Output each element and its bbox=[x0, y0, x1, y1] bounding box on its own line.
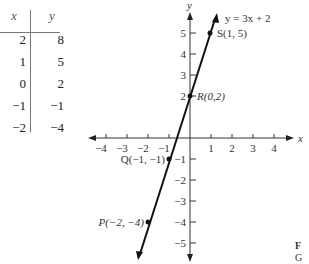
point-Q: Q(−1, −1) bbox=[121, 153, 172, 166]
x-tick-label: 3 bbox=[250, 142, 256, 154]
x-tick-label: 1 bbox=[208, 142, 214, 154]
x-tick-label: −4 bbox=[95, 142, 107, 154]
y-axis-label: y bbox=[186, 0, 192, 11]
point-label: Q(−1, −1) bbox=[121, 153, 166, 166]
line-equation-label: y = 3x + 2 bbox=[225, 12, 270, 24]
y-tick-label: −3 bbox=[174, 195, 186, 207]
line-y-equals-3x-plus-2: y = 3x + 2 bbox=[136, 12, 270, 260]
point-label: P(−2, −4) bbox=[98, 216, 145, 229]
x-tick-label: 4 bbox=[271, 142, 277, 154]
y-tick-label: −5 bbox=[174, 237, 186, 249]
y-tick-label: −1 bbox=[174, 153, 186, 165]
y-axis-down-arrow-icon bbox=[187, 254, 193, 262]
point-S: S(1, 5) bbox=[208, 27, 248, 40]
y-axis-up-arrow-icon bbox=[187, 12, 193, 20]
point-P: P(−2, −4) bbox=[98, 216, 151, 229]
line-bottom-arrow-icon bbox=[136, 251, 143, 260]
x-axis: x −4 −3 −2 −1 1 2 3 4 bbox=[88, 132, 303, 154]
x-axis-label: x bbox=[297, 132, 303, 144]
y-tick-label: 5 bbox=[181, 27, 187, 39]
caption-line-2: G bbox=[295, 252, 302, 264]
coordinate-graph: x −4 −3 −2 −1 1 2 3 4 y 5 4 3 2 −1 bbox=[0, 0, 309, 264]
x-tick-label: 2 bbox=[229, 142, 235, 154]
line-top-arrow-icon bbox=[212, 13, 219, 23]
y-tick-label: −4 bbox=[174, 216, 186, 228]
caption-line-1: F bbox=[295, 240, 302, 252]
figure-caption-fragment: F G bbox=[295, 240, 302, 264]
y-axis: y 5 4 3 2 −1 −2 −3 −4 −5 bbox=[174, 0, 196, 262]
y-tick-label: 4 bbox=[181, 48, 187, 60]
y-tick-label: −2 bbox=[174, 174, 186, 186]
y-tick-label: 3 bbox=[181, 69, 187, 81]
x-axis-right-arrow-icon bbox=[286, 135, 294, 141]
point-label: R(0,2) bbox=[196, 90, 225, 103]
x-axis-left-arrow-icon bbox=[88, 135, 96, 141]
y-tick-label: 2 bbox=[181, 90, 187, 102]
point-label: S(1, 5) bbox=[217, 27, 247, 40]
